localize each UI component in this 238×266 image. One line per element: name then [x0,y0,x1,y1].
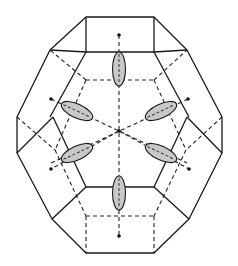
axis-endpoint-dot [186,97,190,101]
center-dot [117,129,121,133]
visible-edge [154,50,187,52]
axis-endpoint-dot [117,234,121,238]
axis-endpoint-dot [49,167,53,171]
diagram-canvas [0,0,238,266]
axis-endpoint-dot [187,167,191,171]
ellipsoid-top [113,52,126,86]
hidden-edge [154,50,187,80]
ellipsoid-bottom [113,176,126,210]
axis-endpoint-dot [117,33,121,37]
axis-endpoint-dot [49,97,53,101]
visible-edge [154,187,189,219]
polyhedron-diagram [0,0,238,266]
ellipsoid-upper-right [143,97,180,124]
visible-edge [50,50,86,52]
ellipsoid-lower-left [59,139,96,166]
visible-edge [52,187,86,219]
hidden-edge [50,50,86,80]
